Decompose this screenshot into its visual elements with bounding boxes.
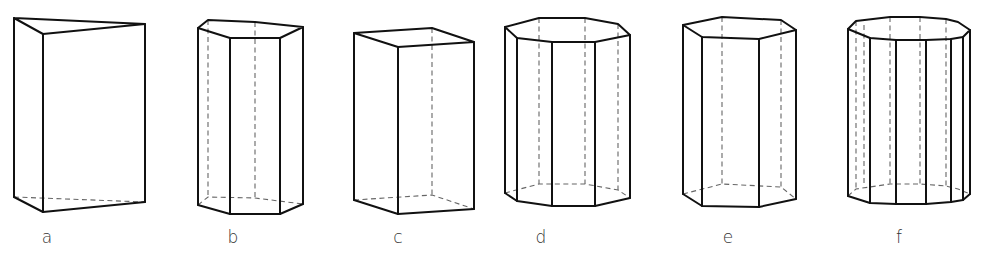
prism-c-rectangular: c (354, 28, 474, 247)
hidden-edge (14, 197, 145, 202)
prism-label: c (393, 227, 402, 247)
hidden-edge (683, 184, 796, 199)
prism-diagram: a b c d e f (0, 0, 988, 256)
visible-edge (505, 18, 630, 42)
prism-f-decagonal: f (848, 17, 970, 247)
visible-edge (683, 194, 796, 207)
prism-a-triangular: a (14, 18, 145, 247)
prism-e-hexagonal: e (683, 17, 796, 247)
visible-edge (14, 197, 145, 212)
hidden-edge (354, 195, 474, 209)
hidden-edge (505, 184, 630, 198)
visible-edge (198, 204, 303, 214)
visible-edge (354, 200, 474, 214)
visible-edge (848, 17, 970, 40)
prism-label: e (723, 227, 733, 247)
visible-edge (354, 28, 474, 47)
visible-edge (505, 193, 630, 206)
visible-edge (14, 18, 145, 34)
visible-edge (198, 20, 303, 38)
prism-d-octagonal: d (505, 18, 630, 247)
prism-label: b (228, 227, 239, 247)
prism-label: f (896, 227, 902, 247)
prism-label: a (42, 227, 52, 247)
prism-b-pentagonal: b (198, 20, 303, 247)
prism-label: d (536, 227, 547, 247)
visible-edge (683, 17, 796, 39)
hidden-edge (198, 197, 303, 205)
